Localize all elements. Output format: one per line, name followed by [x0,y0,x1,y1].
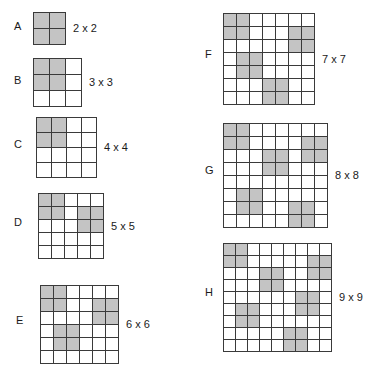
cell-r1-c1 [39,194,51,206]
cell-r7-c4 [260,316,271,327]
cell-r1-c3 [66,59,81,74]
cell-r2-c3 [65,207,77,219]
cell-r9-c9 [320,340,331,351]
cell-r7-c5 [276,202,288,214]
cell-r7-c9 [320,316,331,327]
cell-r2-c4 [260,256,271,267]
cell-r4-c5 [272,280,283,291]
cell-r7-c4 [263,202,275,214]
cell-r2-c5 [276,137,288,149]
cell-r1-c7 [296,244,307,255]
cell-r8-c1 [224,328,235,339]
cell-r3-c1 [224,268,235,279]
cell-r3-c7 [296,268,307,279]
panel-letter-b: B [14,75,30,86]
cell-r3-c9 [320,268,331,279]
cell-r7-c6 [284,316,295,327]
cell-r2-c5 [93,299,105,311]
cell-r1-c4 [263,14,275,26]
grid-c [36,117,97,178]
grid-patterns-figure: A2 x 2B3 x 3C4 x 4D5 x 5E6 x 6F7 x 7G8 x… [0,0,388,376]
cell-r3-c3 [248,268,259,279]
grid-d [38,193,104,259]
cell-r3-c5 [91,220,103,232]
cell-r5-c3 [65,246,77,258]
cell-r2-c5 [91,207,103,219]
cell-r2-c2 [50,29,65,44]
cell-r3-c2 [236,268,247,279]
cell-r3-c8 [315,150,327,162]
cell-r4-c1 [39,233,51,245]
panel-d: D5 x 5 [38,193,135,259]
cell-r2-c4 [78,207,90,219]
cell-r7-c1 [224,92,236,104]
cell-r1-c5 [91,194,103,206]
cell-r6-c5 [93,351,105,363]
panel-size-label-g: 8 x 8 [335,170,359,181]
cell-r6-c3 [248,304,259,315]
cell-r3-c3 [65,220,77,232]
cell-r6-c3 [250,79,262,91]
cell-r2-c8 [315,137,327,149]
cell-r6-c4 [263,79,275,91]
cell-r3-c4 [78,220,90,232]
cell-r2-c6 [289,27,301,39]
cell-r9-c3 [248,340,259,351]
grid-f [223,13,315,105]
cell-r2-c1 [34,75,49,90]
cell-r4-c3 [65,233,77,245]
cell-r1-c4 [263,124,275,136]
cell-r5-c7 [302,66,314,78]
cell-r1-c7 [302,14,314,26]
cell-r5-c7 [296,292,307,303]
cell-r7-c3 [248,316,259,327]
panel-size-label-e: 6 x 6 [126,319,150,330]
cell-r4-c2 [52,233,64,245]
cell-r5-c9 [320,292,331,303]
cell-r4-c7 [302,53,314,65]
cell-r3-c1 [37,148,51,162]
cell-r1-c2 [237,14,249,26]
cell-r8-c4 [260,328,271,339]
cell-r1-c4 [260,244,271,255]
panel-size-label-a: 2 x 2 [73,23,97,34]
cell-r6-c9 [320,304,331,315]
cell-r6-c5 [272,304,283,315]
cell-r2-c2 [237,27,249,39]
cell-r8-c7 [302,215,314,227]
cell-r5-c5 [93,338,105,350]
cell-r1-c1 [224,244,235,255]
panel-f: F7 x 7 [223,13,346,105]
cell-r9-c7 [296,340,307,351]
cell-r3-c3 [67,312,79,324]
cell-r2-c1 [39,207,51,219]
cell-r6-c7 [296,304,307,315]
cell-r8-c9 [320,328,331,339]
cell-r2-c7 [296,256,307,267]
cell-r8-c8 [315,215,327,227]
cell-r1-c8 [315,124,327,136]
cell-r3-c2 [52,148,66,162]
cell-r2-c3 [248,256,259,267]
cell-r4-c4 [260,280,271,291]
cell-r5-c6 [289,66,301,78]
cell-r5-c5 [276,176,288,188]
cell-r1-c2 [50,13,65,28]
cell-r1-c1 [224,124,236,136]
cell-r8-c3 [250,215,262,227]
panel-a: A2 x 2 [33,12,97,45]
cell-r2-c1 [224,256,235,267]
cell-r4-c2 [237,53,249,65]
cell-r3-c5 [93,312,105,324]
cell-r4-c5 [91,233,103,245]
cell-r6-c4 [263,189,275,201]
cell-r5-c3 [250,176,262,188]
cell-r3-c2 [52,220,64,232]
cell-r1-c5 [93,286,105,298]
cell-r5-c2 [236,292,247,303]
cell-r6-c1 [224,189,236,201]
cell-r3-c8 [308,268,319,279]
cell-r5-c6 [284,292,295,303]
cell-r2-c1 [34,29,49,44]
cell-r1-c5 [276,124,288,136]
